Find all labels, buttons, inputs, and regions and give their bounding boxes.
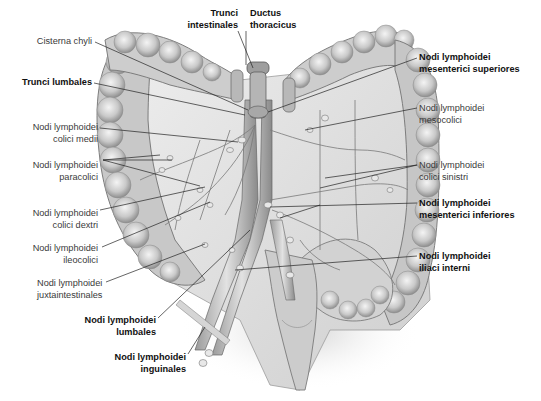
label-text: Nodi lymphoidei <box>66 315 156 327</box>
label-nodi-mesocolici: Nodi lymphoidei mesocolici <box>419 103 519 126</box>
label-text: iliaci interni <box>419 263 529 275</box>
label-text: colici medii <box>14 134 98 146</box>
label-text: mesocolici <box>419 115 519 127</box>
label-nodi-colici-sinistri: Nodi lymphoidei colici sinistri <box>419 160 519 183</box>
label-text: Nodi lymphoidei <box>419 52 539 64</box>
label-text: ileocolici <box>14 255 98 267</box>
label-text: inguinales <box>96 364 186 376</box>
label-text: Nodi lymphoidei <box>14 122 98 134</box>
label-nodi-lumbales: Nodi lymphoidei lumbales <box>66 315 156 338</box>
label-nodi-colici-medii: Nodi lymphoidei colici medii <box>14 122 98 145</box>
label-nodi-colici-dextri: Nodi lymphoidei colici dextri <box>14 208 98 231</box>
label-nodi-juxtaintestinales: Nodi lymphoidei juxtaintestinales <box>37 278 137 301</box>
label-text: colici sinistri <box>419 172 519 184</box>
label-text: intestinales <box>172 20 238 32</box>
label-text: mesenterici inferiores <box>419 210 539 222</box>
label-trunci-lumbales: Trunci lumbales <box>6 77 92 89</box>
label-ductus-thoracicus: Ductus thoracicus <box>250 8 310 31</box>
label-nodi-paracolici: Nodi lymphoidei paracolici <box>14 160 98 183</box>
label-text: Nodi lymphoidei <box>14 243 98 255</box>
label-nodi-inguinales: Nodi lymphoidei inguinales <box>96 352 186 375</box>
label-trunci-intestinales: Trunci intestinales <box>172 8 238 31</box>
label-text: Nodi lymphoidei <box>419 251 529 263</box>
label-nodi-mesenterici-superiores: Nodi lymphoidei mesenterici superiores <box>419 52 539 75</box>
label-text: Nodi lymphoidei <box>419 160 519 172</box>
label-nodi-iliaci-interni: Nodi lymphoidei iliaci interni <box>419 251 529 274</box>
label-text: thoracicus <box>250 20 310 32</box>
label-text: Nodi lymphoidei <box>96 352 186 364</box>
label-text: Ductus <box>250 8 310 20</box>
label-text: paracolici <box>14 172 98 184</box>
label-text: lumbales <box>66 327 156 339</box>
label-text: Nodi lymphoidei <box>419 198 539 210</box>
label-nodi-mesenterici-inferiores: Nodi lymphoidei mesenterici inferiores <box>419 198 539 221</box>
label-text: Nodi lymphoidei <box>419 103 519 115</box>
label-cisterna-chyli: Cisterna chyli <box>26 36 92 48</box>
label-text: Nodi lymphoidei <box>14 160 98 172</box>
label-text: Nodi lymphoidei <box>37 278 137 290</box>
anatomy-figure: Cisterna chyli Trunci intestinales Ductu… <box>0 0 541 401</box>
label-text: mesenterici superiores <box>419 64 539 76</box>
label-nodi-ileocolici: Nodi lymphoidei ileocolici <box>14 243 98 266</box>
label-text: Nodi lymphoidei <box>14 208 98 220</box>
label-text: Trunci <box>172 8 238 20</box>
label-text: colici dextri <box>14 220 98 232</box>
label-text: Trunci lumbales <box>6 77 92 89</box>
label-text: Cisterna chyli <box>26 36 92 48</box>
label-text: juxtaintestinales <box>37 290 137 302</box>
